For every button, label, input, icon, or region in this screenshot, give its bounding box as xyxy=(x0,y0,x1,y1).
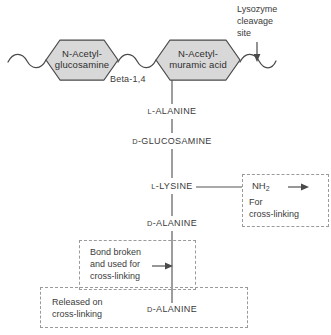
residue-3-name: -LYSINE xyxy=(156,181,193,191)
glycan-wave-left xyxy=(8,54,46,67)
residue-d-alanine-upper: D-ALANINE xyxy=(132,218,212,229)
released-line-1: Released on xyxy=(52,296,103,308)
bond-broken-label: Bond broken and used for cross-linking xyxy=(90,246,141,282)
residue-4-name: -ALANINE xyxy=(153,218,197,228)
residue-d-glucosamine: D-GLUCOSAMINE xyxy=(122,136,222,147)
released-line-2: cross-linking xyxy=(52,308,103,320)
cleavage-line-2: cleavage xyxy=(237,16,277,28)
hexagon-label-n-acetyl-muramic-acid: N-Acetyl- muramic acid xyxy=(154,48,242,70)
nam-line-2: muramic acid xyxy=(154,59,242,70)
residue-l-lysine: L-LYSINE xyxy=(134,181,210,192)
amine-group-text: NH xyxy=(252,180,266,191)
residue-l-alanine: L-ALANINE xyxy=(132,106,212,117)
bond-broken-line-1: Bond broken xyxy=(90,246,141,258)
lysozyme-cleavage-arrow-icon xyxy=(254,42,261,62)
residue-5-name: -ALANINE xyxy=(153,304,197,314)
residue-d-alanine-lower: D-ALANINE xyxy=(132,304,212,315)
glycan-wave-middle xyxy=(118,54,156,67)
lysozyme-cleavage-site-label: Lysozyme cleavage site xyxy=(237,4,277,40)
peptidoglycan-diagram: N-Acetyl- glucosamine N-Acetyl- muramic … xyxy=(0,0,331,335)
released-label: Released on cross-linking xyxy=(52,296,103,320)
cleavage-line-1: Lysozyme xyxy=(237,4,277,16)
cleavage-line-3: site xyxy=(237,28,277,40)
amine-purpose-label: For cross-linking xyxy=(249,196,299,220)
beta-1-4-bond-label: Beta-1,4 xyxy=(110,74,146,85)
nam-line-1: N-Acetyl- xyxy=(154,48,242,59)
amine-subscript: 2 xyxy=(266,185,270,192)
residue-1-name: -ALANINE xyxy=(152,106,196,116)
amine-purpose-line-1: For xyxy=(249,196,299,208)
bond-broken-line-3: cross-linking xyxy=(90,270,141,282)
residue-2-name: -GLUCOSAMINE xyxy=(138,136,212,146)
hexagon-label-n-acetyl-glucosamine: N-Acetyl- glucosamine xyxy=(46,48,118,70)
amine-group-label: NH2 xyxy=(252,180,270,191)
nag-line-2: glucosamine xyxy=(46,59,118,70)
bond-broken-line-2: and used for xyxy=(90,258,141,270)
amine-purpose-line-2: cross-linking xyxy=(249,208,299,220)
nag-line-1: N-Acetyl- xyxy=(46,48,118,59)
glycan-wave-right xyxy=(240,54,276,67)
